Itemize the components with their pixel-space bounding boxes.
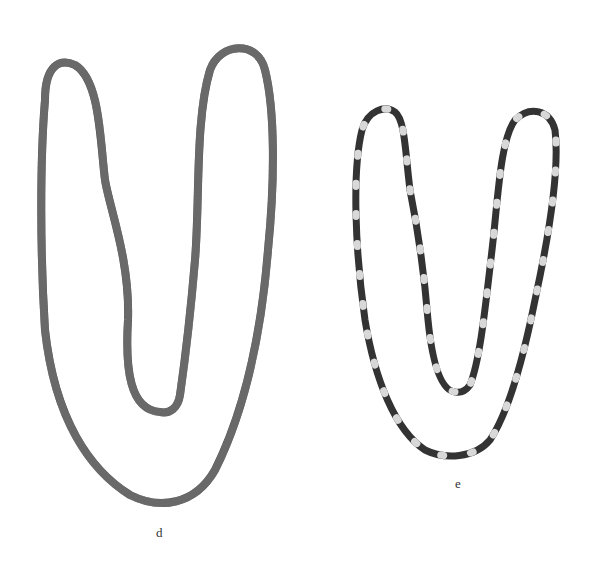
necklace-photo: d e bbox=[0, 0, 595, 566]
necklaces-illustration bbox=[0, 0, 595, 566]
label-d: d bbox=[156, 525, 163, 541]
necklace-e bbox=[356, 109, 556, 456]
necklace-d bbox=[41, 48, 273, 503]
label-e: e bbox=[455, 476, 461, 492]
